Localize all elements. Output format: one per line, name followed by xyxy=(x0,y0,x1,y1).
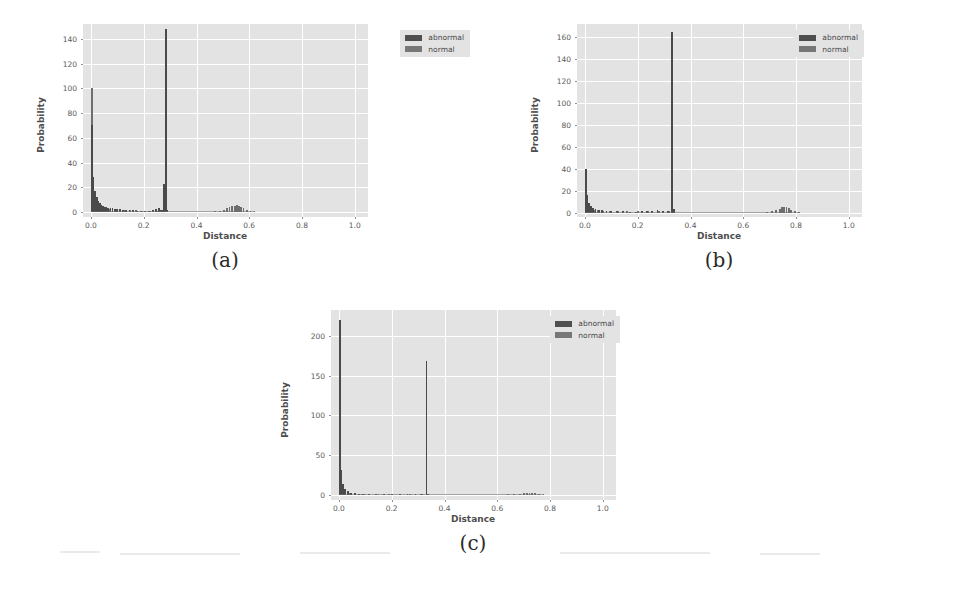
y-tick-label: 60 xyxy=(57,133,77,142)
panel-a: Probability Distance abnormal normal 0.0… xyxy=(0,0,478,290)
x-tick-label: 0.4 xyxy=(191,221,203,230)
y-tick-mark xyxy=(575,59,577,60)
panel-b-legend: abnormal normal xyxy=(794,30,864,57)
legend-swatch-normal-icon xyxy=(405,46,422,52)
gridline-horizontal xyxy=(83,88,368,89)
x-tick-mark xyxy=(392,500,393,502)
gridline-horizontal xyxy=(83,113,368,114)
y-tick-mark xyxy=(575,191,577,192)
x-tick-mark xyxy=(691,217,692,219)
histogram-bar xyxy=(671,32,673,213)
gridline-horizontal xyxy=(577,59,862,60)
x-tick-mark xyxy=(339,500,340,502)
y-tick-label: 0 xyxy=(57,208,77,217)
panel-b-ylabel: Probability xyxy=(530,80,540,170)
figure-root: Probability Distance abnormal normal 0.0… xyxy=(0,0,956,598)
y-tick-label: 100 xyxy=(551,99,571,108)
gridline-vertical xyxy=(638,24,639,217)
legend-item-normal: normal xyxy=(555,332,614,340)
gridline-horizontal xyxy=(83,39,368,40)
y-tick-label: 120 xyxy=(551,77,571,86)
histogram-baseline xyxy=(339,494,544,495)
x-tick-label: 0.6 xyxy=(737,221,749,230)
x-tick-label: 1.0 xyxy=(843,221,855,230)
y-tick-label: 150 xyxy=(305,371,325,380)
panel-a-xlabel: Distance xyxy=(203,231,247,241)
y-tick-mark xyxy=(329,455,331,456)
y-tick-label: 100 xyxy=(57,84,77,93)
y-tick-mark xyxy=(329,376,331,377)
y-tick-label: 0 xyxy=(305,491,325,500)
y-tick-mark xyxy=(575,81,577,82)
panel-c-caption: (c) xyxy=(460,531,487,555)
x-tick-label: 0.2 xyxy=(632,221,644,230)
y-tick-label: 0 xyxy=(551,208,571,217)
y-tick-mark xyxy=(81,113,83,114)
x-tick-mark xyxy=(445,500,446,502)
gridline-horizontal xyxy=(83,138,368,139)
x-tick-label: 0.2 xyxy=(386,504,398,513)
scan-artifact xyxy=(760,553,820,555)
y-tick-mark xyxy=(329,415,331,416)
y-tick-label: 80 xyxy=(551,120,571,129)
scan-artifact xyxy=(120,553,240,555)
x-tick-label: 0.8 xyxy=(790,221,802,230)
gridline-horizontal xyxy=(577,125,862,126)
x-tick-mark xyxy=(355,217,356,219)
panel-a-caption: (a) xyxy=(211,248,239,272)
panel-a-axes: Probability Distance abnormal normal 0.0… xyxy=(0,0,478,290)
y-tick-label: 200 xyxy=(305,331,325,340)
x-tick-mark xyxy=(585,217,586,219)
gridline-horizontal xyxy=(577,103,862,104)
y-tick-mark xyxy=(329,336,331,337)
legend-label-normal: normal xyxy=(578,332,604,340)
x-tick-mark xyxy=(849,217,850,219)
gridline-vertical xyxy=(445,310,446,500)
legend-item-normal: normal xyxy=(799,46,858,54)
histogram-baseline xyxy=(91,211,255,212)
gridline-horizontal xyxy=(83,64,368,65)
scan-artifact xyxy=(300,552,390,554)
x-tick-mark xyxy=(796,217,797,219)
scan-artifact xyxy=(560,552,710,554)
gridline-horizontal xyxy=(577,81,862,82)
histogram-bar xyxy=(426,361,428,495)
legend-swatch-normal-icon xyxy=(799,46,816,52)
y-tick-mark xyxy=(575,169,577,170)
legend-label-normal: normal xyxy=(822,46,848,54)
panel-b-xlabel: Distance xyxy=(697,231,741,241)
y-tick-mark xyxy=(81,64,83,65)
panel-a-legend: abnormal normal xyxy=(400,30,470,57)
legend-swatch-abnormal-icon xyxy=(555,321,572,327)
y-tick-label: 80 xyxy=(57,109,77,118)
y-tick-mark xyxy=(575,147,577,148)
legend-label-abnormal: abnormal xyxy=(822,34,858,42)
legend-item-abnormal: abnormal xyxy=(799,34,858,42)
x-tick-mark xyxy=(743,217,744,219)
gridline-vertical xyxy=(497,310,498,500)
gridline-horizontal xyxy=(577,169,862,170)
panel-c: Probability Distance abnormal normal 0.0… xyxy=(239,290,717,590)
legend-swatch-abnormal-icon xyxy=(405,35,422,41)
gridline-horizontal xyxy=(577,147,862,148)
gridline-horizontal xyxy=(577,213,862,214)
x-tick-label: 1.0 xyxy=(597,504,609,513)
y-tick-mark xyxy=(575,125,577,126)
legend-item-abnormal: abnormal xyxy=(405,34,464,42)
x-tick-mark xyxy=(497,500,498,502)
y-tick-label: 100 xyxy=(305,411,325,420)
x-tick-label: 0.4 xyxy=(439,504,451,513)
y-tick-mark xyxy=(575,213,577,214)
x-tick-label: 0.2 xyxy=(138,221,150,230)
legend-swatch-abnormal-icon xyxy=(799,35,816,41)
x-tick-label: 0.8 xyxy=(296,221,308,230)
y-tick-label: 40 xyxy=(551,164,571,173)
legend-swatch-normal-icon xyxy=(555,332,572,338)
panel-a-ylabel: Probability xyxy=(36,80,46,170)
y-tick-mark xyxy=(81,138,83,139)
legend-label-normal: normal xyxy=(428,46,454,54)
histogram-baseline xyxy=(585,212,799,213)
gridline-horizontal xyxy=(331,495,616,496)
y-tick-label: 120 xyxy=(57,59,77,68)
y-tick-label: 20 xyxy=(551,186,571,195)
